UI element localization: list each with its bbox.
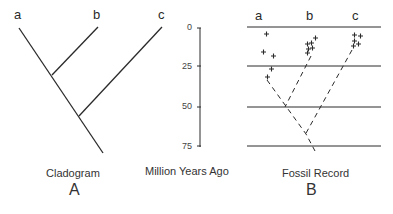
fossil-a-1 bbox=[264, 32, 269, 37]
fossil-b-2 bbox=[305, 42, 310, 47]
fossil-c-5 bbox=[351, 44, 356, 49]
lineage-b bbox=[285, 56, 311, 107]
branch-a-trunk bbox=[19, 28, 103, 153]
fossil-b-5 bbox=[310, 46, 315, 51]
fossil-record-caption: Fossil Record bbox=[282, 168, 349, 179]
cladogram-tree bbox=[19, 27, 162, 153]
lineage-c bbox=[305, 50, 352, 135]
diagram-canvas bbox=[0, 0, 393, 214]
fossil-b-4 bbox=[306, 47, 311, 52]
axis-tick-label-0: 0 bbox=[170, 23, 192, 32]
fossil-b-6 bbox=[305, 51, 310, 56]
fossil-b-3 bbox=[309, 41, 314, 46]
fossil-taxon-b: b bbox=[306, 9, 313, 22]
cladogram-taxon-c: c bbox=[158, 8, 165, 21]
fossil-a-3 bbox=[271, 54, 276, 59]
cladogram-taxon-b: b bbox=[93, 8, 100, 21]
fossil-a-5 bbox=[265, 75, 270, 80]
fossil-taxon-c: c bbox=[352, 9, 359, 22]
panel-letter-a: A bbox=[69, 182, 80, 198]
axis-tick-label-25: 25 bbox=[170, 62, 192, 71]
fossil-a-4 bbox=[269, 67, 274, 72]
lineage-a bbox=[267, 80, 315, 151]
time-axis bbox=[197, 28, 201, 147]
fossil-a-2 bbox=[261, 50, 266, 55]
axis-tick-label-50: 50 bbox=[170, 102, 192, 111]
fossil-c-4 bbox=[356, 42, 361, 47]
fossil-c-3 bbox=[352, 39, 357, 44]
axis-tick-label-75: 75 bbox=[170, 142, 192, 151]
fossil-c-2 bbox=[358, 34, 363, 39]
cladogram-taxon-a: a bbox=[14, 8, 21, 21]
branch-c bbox=[79, 27, 162, 116]
inferred-lineages bbox=[267, 50, 352, 151]
fossil-b-1 bbox=[313, 36, 318, 41]
strata-lines bbox=[247, 27, 381, 146]
fossil-markers bbox=[261, 32, 363, 80]
cladogram-caption: Cladogram bbox=[46, 168, 100, 179]
time-axis-label: Million Years Ago bbox=[145, 166, 229, 177]
fossil-taxon-a: a bbox=[255, 9, 262, 22]
branch-b bbox=[52, 27, 98, 75]
fossil-c-1 bbox=[352, 33, 357, 38]
panel-letter-b: B bbox=[306, 182, 317, 198]
